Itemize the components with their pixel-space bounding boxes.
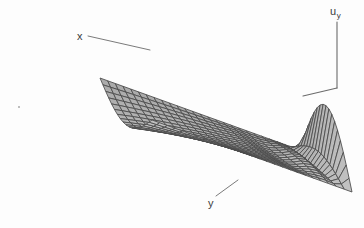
y-axis-label: y: [208, 198, 214, 209]
uy-axis-label-base: u: [330, 5, 336, 17]
uy-axis-label: uy: [330, 6, 341, 17]
surface-mesh-canvas: [0, 0, 364, 228]
x-leader: [88, 36, 150, 50]
surface-plot-figure: x y uy: [0, 0, 364, 228]
axis-lines-group: [303, 22, 337, 96]
x-axis-label: x: [77, 31, 83, 42]
y-leader: [216, 180, 238, 196]
scan-artifact-speck: [18, 106, 20, 108]
surface-mesh-group: [100, 78, 352, 192]
uy-axis-label-subscript: y: [337, 11, 341, 20]
back-edge-axis: [303, 88, 337, 96]
